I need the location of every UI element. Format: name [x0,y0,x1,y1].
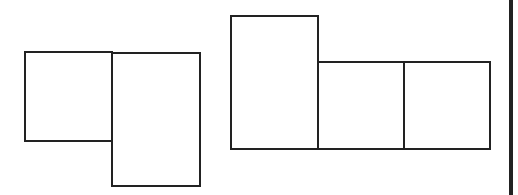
diagram-canvas [0,0,518,195]
rect-b [112,53,200,186]
square-d [318,62,404,149]
rect-c [231,16,318,149]
vertical-divider [509,0,513,195]
right-net [231,16,490,149]
square-e [404,62,490,149]
square-a [25,52,112,141]
left-net [25,52,200,186]
